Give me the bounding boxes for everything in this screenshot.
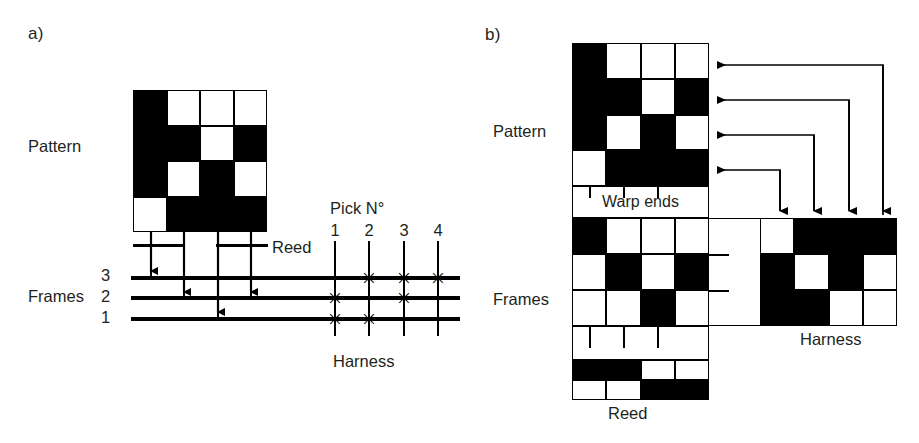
pick-number-1: 1	[328, 221, 342, 240]
panel-b-reed-cell-r2-c2	[606, 380, 640, 400]
panel-b-pattern-cell-r4-c2	[606, 150, 640, 186]
panel-b-frames-lower-band	[572, 326, 709, 360]
harness-mark-p3-f3: ✳	[396, 269, 412, 288]
panel-b-frames-cell-r2-c1	[572, 254, 606, 290]
panel-b-pattern-cell-r4-c1	[572, 150, 606, 186]
panel-a: a) Pattern Reed Frames 3 2 1 Pick N° 1 2…	[0, 0, 460, 443]
panel-b-frames-cell-r1-c2	[606, 218, 640, 254]
pick-no-label: Pick N°	[330, 199, 384, 218]
harness-mark-p4-f3: ✳	[430, 269, 446, 288]
panel-b-reed-cell-r2-c3	[641, 380, 675, 400]
heddle-tick-3	[657, 326, 659, 348]
panel-b-pattern-cell-r2-c1	[572, 79, 606, 115]
panel-b-harness-cell-r1-c2	[794, 218, 828, 254]
panel-b-harness-label: Harness	[800, 330, 861, 349]
frame-number-1: 1	[101, 308, 110, 327]
panel-a-pattern-label: Pattern	[28, 137, 81, 156]
frame-line-1	[131, 317, 460, 321]
frames-harness-connector-box	[709, 218, 761, 326]
panel-b-frames-grid	[572, 218, 709, 326]
panel-b-pattern-cell-r2-c4	[675, 79, 709, 115]
warp-line-4	[250, 232, 252, 296]
panel-a-pattern-cell-r4-c2	[167, 197, 201, 233]
panel-b-frames-cell-r1-c4	[675, 218, 709, 254]
panel-b-frames-cell-r2-c2	[606, 254, 640, 290]
panel-b-harness-cell-r1-c1	[760, 218, 794, 254]
harness-mark-p1-f1: ✳	[327, 310, 343, 329]
panel-b-pattern-cell-r2-c3	[641, 79, 675, 115]
panel-a-pattern-cell-r4-c4	[234, 197, 268, 233]
panel-b-reed-cell-r2-c1	[572, 380, 606, 400]
panel-b-reed-cell-r1-c1	[572, 360, 606, 380]
panel-b-reed-cell-r2-c4	[675, 380, 709, 400]
panel-b-pattern-cell-r4-c4	[675, 150, 709, 186]
panel-a-pattern-cell-r2-c4	[234, 126, 268, 162]
panel-b-pattern-cell-r1-c1	[572, 43, 606, 79]
pick-number-4: 4	[431, 221, 445, 240]
panel-b-pattern-cell-r3-c4	[675, 115, 709, 151]
panel-b-pattern-cell-r1-c2	[606, 43, 640, 79]
panel-b-pattern-cell-r3-c1	[572, 115, 606, 151]
panel-b-harness-cell-r3-c4	[863, 290, 897, 326]
panel-a-pattern-cell-r3-c1	[133, 161, 167, 197]
panel-b-reed-label: Reed	[608, 404, 647, 423]
panel-b-harness-cell-r3-c3	[829, 290, 863, 326]
panel-b-frames-cell-r3-c4	[675, 290, 709, 326]
panel-b-reed-cell-r1-c2	[606, 360, 640, 380]
panel-a-pattern-cell-r3-c4	[234, 161, 268, 197]
panel-b-pattern-cell-r1-c3	[641, 43, 675, 79]
panel-b-pattern-grid	[572, 43, 709, 186]
panel-a-pattern-cell-r1-c3	[200, 90, 234, 126]
panel-b-harness-cell-r2-c2	[794, 254, 828, 290]
reed-bar-1	[133, 244, 184, 247]
harness-line-4	[437, 241, 439, 336]
panel-b-harness-cell-r2-c1	[760, 254, 794, 290]
panel-b-pattern-cell-r2-c2	[606, 79, 640, 115]
panel-b-harness-cell-r1-c4	[863, 218, 897, 254]
panel-b-reed-cell-r1-c3	[641, 360, 675, 380]
panel-a-reed-label: Reed	[272, 238, 311, 257]
frame-number-2: 2	[101, 287, 110, 306]
warp-end-tick-3	[657, 186, 659, 198]
panel-b-harness-cell-r3-c2	[794, 290, 828, 326]
panel-a-pattern-grid	[133, 90, 267, 232]
panel-b-frames-cell-r2-c3	[641, 254, 675, 290]
panel-a-harness-label: Harness	[333, 352, 394, 371]
panel-a-pattern-cell-r3-c2	[167, 161, 201, 197]
panel-a-pattern-cell-r1-c1	[133, 90, 167, 126]
panel-b-harness-cell-r1-c3	[829, 218, 863, 254]
harness-mark-p2-f3: ✳	[361, 269, 377, 288]
heddle-tick-1	[589, 326, 591, 348]
warp-line-1	[150, 232, 152, 276]
panel-b-frames-cell-r3-c3	[641, 290, 675, 326]
panel-b-pattern-cell-r3-c2	[606, 115, 640, 151]
heddle-tick-2	[623, 326, 625, 348]
panel-b-harness-grid	[760, 218, 897, 326]
panel-b-frames-label: Frames	[493, 290, 549, 309]
panel-b-harness-cell-r2-c3	[829, 254, 863, 290]
warp-end-tick-2	[623, 186, 625, 198]
panel-a-pattern-cell-r2-c3	[200, 126, 234, 162]
panel-b-harness-cell-r2-c4	[863, 254, 897, 290]
frame-number-3: 3	[101, 266, 110, 285]
panel-a-pattern-cell-r3-c3	[200, 161, 234, 197]
panel-b-pattern-cell-r1-c4	[675, 43, 709, 79]
panel-a-pattern-cell-r4-c3	[200, 197, 234, 233]
warp-ends-label: Warp ends	[572, 193, 709, 211]
panel-b-harness-cell-r3-c1	[760, 290, 794, 326]
panel-b-reed-grid	[572, 360, 709, 400]
pick-number-3: 3	[397, 221, 411, 240]
reed-bar-2	[216, 244, 268, 247]
warp-line-2	[183, 232, 185, 296]
panel-a-letter: a)	[28, 24, 44, 44]
pick-number-2: 2	[362, 221, 376, 240]
panel-a-frames-label: Frames	[28, 287, 84, 306]
panel-b: b) Pattern Warp ends Frames Reed Harness	[460, 0, 919, 443]
panel-b-frames-cell-r1-c3	[641, 218, 675, 254]
panel-b-frames-cell-r2-c4	[675, 254, 709, 290]
panel-b-pattern-cell-r3-c3	[641, 115, 675, 151]
panel-a-pattern-cell-r2-c1	[133, 126, 167, 162]
harness-mark-p3-f2: ✳	[396, 289, 412, 308]
panel-a-pattern-cell-r2-c2	[167, 126, 201, 162]
panel-b-pattern-label: Pattern	[493, 122, 546, 141]
